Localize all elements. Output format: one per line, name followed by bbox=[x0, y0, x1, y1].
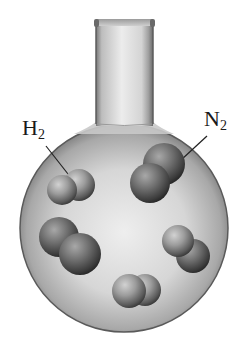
molecule-bottom-center bbox=[112, 274, 161, 308]
flask-neck bbox=[96, 22, 153, 126]
n2-label: N2 bbox=[204, 108, 227, 130]
flask-illustration bbox=[0, 0, 248, 352]
flask-diagram: H2 N2 bbox=[0, 0, 248, 352]
h2-element: H bbox=[22, 115, 38, 140]
h2-label: H2 bbox=[22, 117, 45, 139]
n2-subscript: 2 bbox=[220, 118, 227, 133]
h2-subscript: 2 bbox=[38, 127, 45, 142]
flask-lip bbox=[95, 19, 154, 26]
n2-element: N bbox=[204, 106, 220, 131]
